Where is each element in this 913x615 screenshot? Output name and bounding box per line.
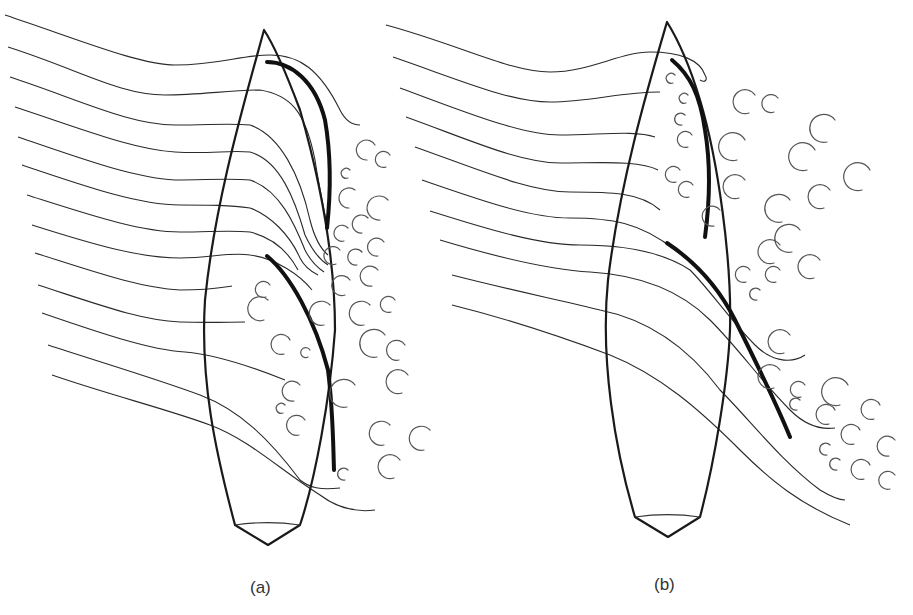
panel-a-eddies bbox=[248, 140, 430, 480]
figure: (a) (b) bbox=[0, 0, 913, 615]
panel-a-drawing bbox=[0, 0, 913, 615]
panel-b-hull bbox=[606, 22, 730, 537]
panel-a-sails bbox=[267, 62, 334, 470]
panel-b-sails bbox=[667, 60, 790, 437]
panel-b-label: (b) bbox=[654, 575, 675, 595]
panel-a-streamlines bbox=[5, 15, 375, 511]
panel-a-label: (a) bbox=[250, 578, 271, 598]
